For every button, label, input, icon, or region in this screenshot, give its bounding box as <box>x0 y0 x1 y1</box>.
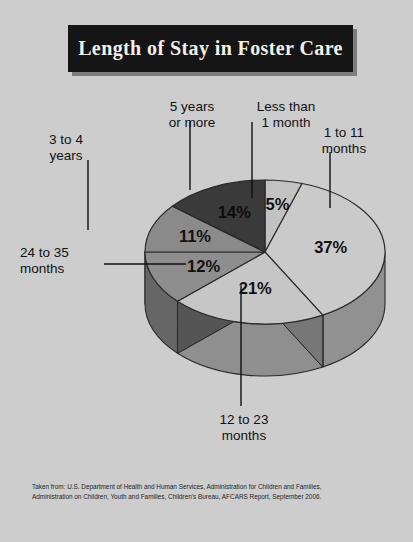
callout-5-years-or-more: 5 years or more <box>152 99 232 130</box>
page-title: Length of Stay in Foster Care <box>68 25 353 72</box>
footnote-line-2: Administration on Children, Youth and Fa… <box>32 492 384 502</box>
slice-percent-11: 11% <box>179 227 211 245</box>
callout-12-to-23-months: 12 to 23 months <box>196 412 292 443</box>
slice-percent-5: 5% <box>265 195 289 213</box>
slice-percent-21: 21% <box>239 279 272 297</box>
callout-3-to-4-years: 3 to 4 years <box>26 132 106 163</box>
poster-page: Length of Stay in Foster Care 5%37%21%12… <box>0 0 413 542</box>
callout-1-to-11-months: 1 to 11 months <box>306 125 382 156</box>
slice-percent-14: 14% <box>218 203 251 221</box>
slice-percent-12: 12% <box>187 257 220 275</box>
source-footnote: Taken from: U.S. Department of Health an… <box>32 482 384 501</box>
title-banner: Length of Stay in Foster Care <box>68 25 353 72</box>
footnote-line-1: Taken from: U.S. Department of Health an… <box>32 482 384 492</box>
slice-percent-37: 37% <box>314 238 347 256</box>
callout-24-to-35-months: 24 to 35 months <box>20 245 106 276</box>
